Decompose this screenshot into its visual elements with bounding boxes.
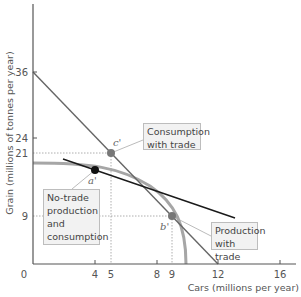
y-tick-24: 24 bbox=[15, 133, 28, 144]
point-b bbox=[168, 212, 176, 220]
consumption-with-trade-box: Consumption with trade bbox=[143, 123, 201, 150]
x-tick-8: 8 bbox=[154, 269, 160, 280]
point-a-label: a' bbox=[88, 175, 97, 186]
x-axis-title: Cars (millions per year) bbox=[188, 282, 299, 293]
y-tick-9: 9 bbox=[22, 211, 28, 222]
x-tick-16: 16 bbox=[274, 269, 287, 280]
point-c bbox=[107, 149, 115, 157]
x-tick-5: 5 bbox=[108, 269, 114, 280]
origin-label: 0 bbox=[21, 269, 27, 280]
y-tick-36: 36 bbox=[15, 67, 28, 78]
x-tick-12: 12 bbox=[212, 269, 225, 280]
x-tick-4: 4 bbox=[92, 269, 98, 280]
point-a bbox=[91, 166, 99, 174]
y-tick-21: 21 bbox=[15, 148, 28, 159]
y-axis-title: Grain (millions of tonnes per year) bbox=[4, 51, 15, 214]
point-c-label: c' bbox=[113, 137, 121, 148]
x-tick-9: 9 bbox=[169, 269, 175, 280]
point-b-label: b' bbox=[160, 221, 169, 232]
no-trade-box: No-trade production and consumption bbox=[43, 189, 100, 245]
production-with-trade-box: Production with trade bbox=[211, 222, 258, 250]
